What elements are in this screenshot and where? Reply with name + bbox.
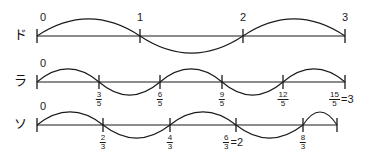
fraction: 23 (100, 134, 106, 149)
tick-label-fraction: 63=2 (223, 134, 243, 149)
tick-label-fraction: 65 (157, 91, 163, 109)
fraction-denominator: 5 (219, 100, 225, 108)
number-line-diagram: ド0123ラ0356595125155=3ソ0234363=283 (0, 0, 378, 149)
tick-label-fraction: 23 (100, 134, 106, 149)
tick-label-zero: 0 (40, 58, 46, 69)
fraction-denominator: 5 (331, 100, 337, 108)
fraction: 63 (223, 134, 229, 149)
number-line-row (37, 19, 345, 53)
tick-label-zero: 0 (40, 12, 46, 23)
tick-label-integer: 2 (240, 12, 246, 23)
fraction: 43 (167, 134, 173, 149)
fraction: 125 (278, 91, 289, 109)
tick-label-fraction: 95 (219, 91, 225, 109)
note-name-label: ラ (14, 74, 27, 87)
fraction: 35 (96, 91, 102, 109)
tick-label-fraction: 43 (167, 134, 173, 149)
fraction-denominator: 5 (157, 100, 163, 108)
tick-label-integer: 1 (137, 12, 143, 23)
number-line-row (37, 69, 345, 95)
fraction-denominator: 5 (96, 100, 102, 108)
tick-label-integer: 3 (342, 12, 348, 23)
note-name-label: ソ (14, 117, 27, 130)
fraction: 155 (329, 91, 340, 109)
fraction: 65 (157, 91, 163, 109)
fraction-denominator: 3 (300, 143, 306, 149)
tick-label-zero: 0 (40, 101, 46, 112)
fraction-denominator: 5 (280, 100, 286, 108)
fraction-denominator: 3 (223, 143, 229, 149)
fraction: 95 (219, 91, 225, 109)
number-line-row (37, 112, 337, 138)
diagram-canvas (0, 0, 378, 149)
fraction-denominator: 3 (167, 143, 173, 149)
fraction-equals-value: =2 (230, 137, 243, 148)
fraction-equals-value: =3 (341, 94, 354, 105)
tick-label-fraction: 155=3 (329, 91, 353, 109)
tick-label-fraction: 83 (300, 134, 306, 149)
fraction: 83 (300, 134, 306, 149)
tick-label-fraction: 35 (96, 91, 102, 109)
tick-label-fraction: 125 (278, 91, 289, 109)
note-name-label: ド (14, 28, 27, 41)
fraction-denominator: 3 (100, 143, 106, 149)
